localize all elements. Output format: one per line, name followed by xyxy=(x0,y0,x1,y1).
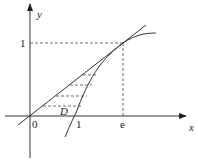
x-axis-label: x xyxy=(188,121,194,133)
y-axis-label: y xyxy=(36,8,42,20)
diagram-canvas: y x 0 1 e 1 D xyxy=(0,0,198,168)
x-tick-label-one: 1 xyxy=(76,118,82,130)
region-d-label: D xyxy=(59,105,68,117)
x-tick-label-e: e xyxy=(120,118,125,130)
y-tick-label-one: 1 xyxy=(20,37,26,49)
origin-label: 0 xyxy=(32,118,38,130)
tangent-line xyxy=(18,25,146,125)
region-d-hatching xyxy=(43,75,98,106)
